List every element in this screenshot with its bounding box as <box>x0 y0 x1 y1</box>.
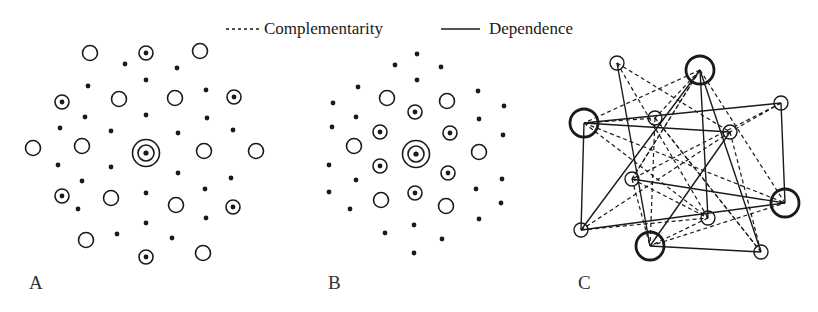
dotted-circle-center <box>378 164 383 169</box>
panel-a <box>26 44 264 265</box>
lattice-dot <box>144 191 149 196</box>
complementarity-edge <box>584 123 785 203</box>
lattice-dot <box>229 176 234 181</box>
open-circle <box>168 91 183 106</box>
dotted-circle-center <box>144 255 149 260</box>
open-circle <box>104 191 119 206</box>
panel-b <box>327 52 507 256</box>
lattice-dot <box>412 223 417 228</box>
lattice-dot <box>499 201 504 206</box>
lattice-dot <box>231 128 236 133</box>
open-circle <box>79 233 94 248</box>
open-circle <box>472 145 487 160</box>
lattice-dot <box>109 165 114 170</box>
dotted-circle-center <box>448 131 453 136</box>
lattice-dot <box>56 163 61 168</box>
lattice-dot <box>144 113 149 118</box>
lattice-dot <box>144 221 149 226</box>
lattice-dot <box>393 63 398 68</box>
dotted-circle-center <box>231 205 236 210</box>
dependence-edge <box>581 203 785 230</box>
lattice-dot <box>204 216 209 221</box>
lattice-dot <box>476 89 481 94</box>
legend: Complementarity Dependence <box>226 19 573 38</box>
lattice-dot <box>383 231 388 236</box>
lattice-dot <box>348 207 353 212</box>
lattice-dot <box>477 117 482 122</box>
complementarity-edge <box>584 123 708 218</box>
lattice-dot <box>501 133 506 138</box>
open-circle <box>112 92 127 107</box>
dotted-circle-center <box>446 171 451 176</box>
lattice-dot <box>170 236 175 241</box>
open-circle <box>249 144 264 159</box>
open-circle <box>196 246 211 261</box>
lattice-dot <box>354 115 359 120</box>
dependence-edge <box>581 123 584 230</box>
lattice-dot <box>474 187 479 192</box>
dependence-edge <box>650 132 730 246</box>
dependence-edge <box>584 103 781 123</box>
panel-a-label: A <box>29 272 43 293</box>
lattice-dot <box>83 115 88 120</box>
lattice-dot <box>144 78 149 83</box>
lattice-dot <box>58 126 63 131</box>
lattice-dot <box>176 171 181 176</box>
lattice-dot <box>76 207 81 212</box>
lattice-dot <box>415 52 420 57</box>
dependence-legend-label: Dependence <box>489 19 573 38</box>
dotted-circle-center <box>60 100 65 105</box>
complementarity-edge <box>655 70 700 118</box>
complementarity-edge <box>581 218 708 230</box>
dotted-circle-center <box>232 95 237 100</box>
panel-c <box>570 56 799 260</box>
lattice-dot <box>109 129 114 134</box>
lattice-dot <box>327 163 332 168</box>
open-circle <box>26 141 41 156</box>
dotted-circle-center <box>413 191 418 196</box>
lattice-dot <box>80 179 85 184</box>
lattice-dot <box>439 65 444 70</box>
lattice-dot <box>204 88 209 93</box>
lattice-dot <box>412 251 417 256</box>
dotted-circle-center <box>144 51 149 56</box>
diagram-canvas: Complementarity Dependence A B C <box>0 0 818 312</box>
lattice-dot <box>356 85 361 90</box>
complementarity-edges <box>581 63 785 252</box>
complementarity-legend-label: Complementarity <box>264 19 383 38</box>
open-circle <box>197 144 212 159</box>
lattice-dot <box>115 232 120 237</box>
dependence-edge <box>632 179 785 203</box>
lattice-dot <box>354 178 359 183</box>
lattice-dot <box>205 116 210 121</box>
open-circle <box>439 199 454 214</box>
panel-b-label: B <box>328 272 341 293</box>
open-circle <box>169 198 184 213</box>
lattice-dot <box>203 187 208 192</box>
dotted-circle-center <box>413 110 418 115</box>
open-circle <box>347 139 362 154</box>
open-circle <box>75 139 90 154</box>
open-circle <box>374 193 389 208</box>
lattice-dot <box>440 237 445 242</box>
open-circle <box>380 91 395 106</box>
complementarity-edge <box>650 203 785 246</box>
lattice-dot <box>330 125 335 130</box>
dependence-edge <box>650 246 761 252</box>
center-dot <box>413 151 418 156</box>
lattice-dot <box>123 62 128 67</box>
lattice-dot <box>415 78 420 83</box>
lattice-dot <box>500 177 505 182</box>
dependence-edges <box>581 63 785 252</box>
lattice-dot <box>175 66 180 71</box>
lattice-dot <box>331 101 336 106</box>
complementarity-edge <box>700 70 785 203</box>
lattice-dot <box>176 131 181 136</box>
dotted-circle-center <box>60 194 65 199</box>
open-circle <box>193 44 208 59</box>
dependence-edge <box>617 63 650 246</box>
open-circle <box>83 46 98 61</box>
lattice-dot <box>86 84 91 89</box>
center-dot <box>143 150 148 155</box>
open-circle <box>440 94 455 109</box>
